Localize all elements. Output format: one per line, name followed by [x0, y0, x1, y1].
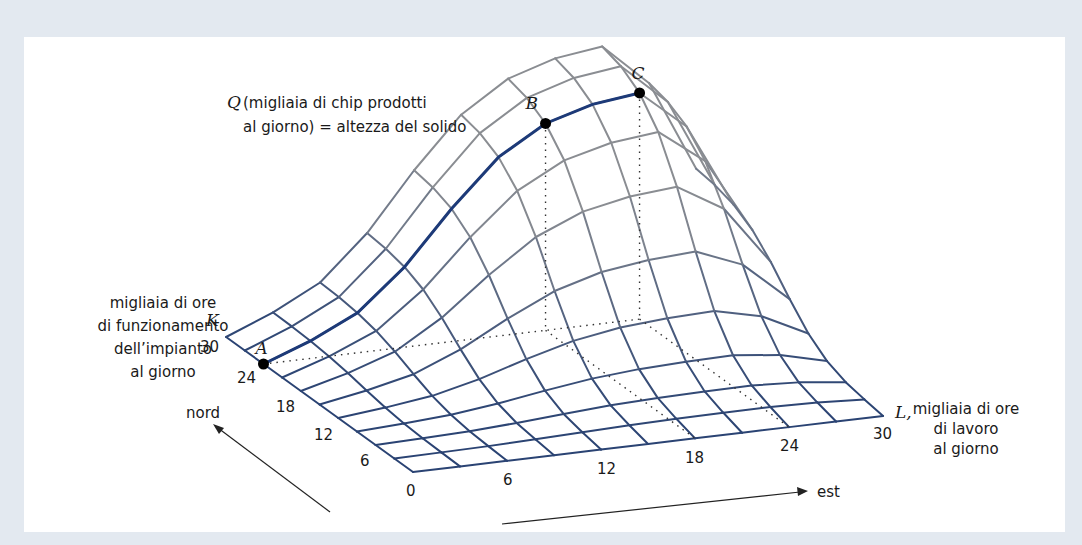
- mesh-line-const-l: [724, 209, 743, 265]
- mesh-line-const-l: [649, 260, 668, 318]
- mesh-line-const-k: [282, 356, 329, 377]
- q-label-line2: al giorno) = altezza del solido: [243, 118, 466, 136]
- mesh-line-const-k: [423, 431, 470, 438]
- mesh-line-const-k: [517, 414, 564, 423]
- mesh-line-const-l: [864, 399, 883, 416]
- east-label: est: [817, 483, 840, 501]
- mesh-line-const-l: [676, 419, 695, 439]
- l-label-line1: migliaia di ore: [913, 400, 1020, 418]
- mesh-line-const-l: [479, 379, 498, 403]
- mesh-line-const-k: [441, 446, 488, 452]
- mesh-line-const-l: [846, 382, 865, 399]
- k-axis-symbol: K: [205, 310, 220, 330]
- mesh-line-const-k: [545, 379, 592, 391]
- point-b-label: B: [525, 93, 539, 113]
- mesh-line-const-l: [573, 341, 592, 379]
- mesh-line-const-k: [573, 328, 620, 341]
- mesh-line-const-k: [770, 403, 817, 407]
- mesh-line-const-l: [574, 78, 593, 104]
- mesh-line-const-k: [385, 396, 432, 408]
- mesh-line-const-l: [667, 318, 686, 361]
- mesh-line-const-k: [395, 318, 442, 352]
- mesh-line-const-k: [423, 237, 470, 289]
- mesh-line-const-k: [301, 373, 348, 391]
- mesh-line-const-l: [367, 391, 386, 408]
- mesh-line-const-l: [808, 334, 827, 362]
- mesh-line-const-k: [413, 466, 460, 472]
- mesh-line-const-k: [555, 46, 602, 58]
- mesh-line-const-k: [292, 297, 339, 326]
- mesh-line-const-k: [648, 438, 695, 444]
- mesh-line-const-k: [245, 326, 292, 350]
- mesh-line-const-k: [536, 212, 583, 237]
- mesh-line-const-k: [752, 382, 799, 385]
- mesh-line-const-k: [394, 452, 441, 458]
- mesh-line-const-l: [827, 361, 846, 382]
- mesh-line-const-l: [686, 362, 705, 392]
- mesh-line-const-k: [414, 349, 461, 374]
- mesh-line-const-l: [489, 275, 508, 319]
- mesh-line-const-k: [489, 237, 536, 275]
- mesh-line-const-l: [752, 385, 771, 407]
- mesh-line-const-l: [770, 407, 789, 427]
- mesh-line-const-l: [498, 404, 517, 423]
- l-tick-18: 18: [685, 449, 704, 467]
- mesh-line-const-l: [470, 237, 489, 275]
- mesh-line-const-l: [414, 374, 433, 396]
- k-label-line4: al giorno: [130, 363, 196, 381]
- mesh-line-const-l: [771, 262, 790, 299]
- mesh-line-const-l: [752, 230, 771, 262]
- mesh-line-const-l: [611, 405, 630, 425]
- mesh-line-const-k: [488, 439, 535, 446]
- mesh-line-const-k: [404, 415, 451, 424]
- mesh-line-const-l: [441, 452, 460, 466]
- mesh-line-const-k: [442, 275, 489, 318]
- mesh-line-const-l: [423, 290, 442, 318]
- mesh-line-const-l: [602, 272, 621, 328]
- mesh-line-const-k: [836, 416, 883, 422]
- mesh-line-const-l: [301, 391, 320, 405]
- mesh-line-const-k: [376, 290, 423, 331]
- mesh-line-const-l: [226, 337, 245, 351]
- mesh-line-const-k: [742, 427, 789, 433]
- mesh-line-const-l: [620, 328, 639, 370]
- mesh-line-const-l: [629, 425, 648, 444]
- mesh-line-const-l: [526, 359, 545, 391]
- mesh-line-const-l: [583, 212, 602, 272]
- mesh-line-const-l: [405, 267, 424, 290]
- point-a-label: A: [253, 338, 267, 358]
- mesh-line-const-k: [526, 341, 573, 359]
- projection-dotted-lines: [263, 93, 789, 438]
- mesh-line-const-l: [499, 157, 518, 191]
- mesh-line-const-k: [611, 132, 658, 143]
- mesh-line-const-k: [611, 398, 658, 405]
- mesh-line-const-l: [508, 319, 527, 359]
- l-axis-symbol: L,: [894, 402, 912, 422]
- mesh-line-const-k: [629, 419, 676, 425]
- mesh-line-const-k: [555, 272, 602, 291]
- mesh-line-const-l: [677, 187, 696, 252]
- point-b-marker: [540, 118, 551, 129]
- k-tick-30: 30: [200, 338, 219, 356]
- mesh-line-const-l: [320, 405, 339, 419]
- mesh-line-const-k: [367, 170, 414, 233]
- mesh-line-const-k: [554, 450, 601, 456]
- production-function-3d-surface: ABC Q (migliaia di chip prodotti al gior…: [0, 0, 1082, 545]
- mesh-line-const-l: [546, 123, 565, 160]
- mesh-line-const-k: [508, 291, 555, 319]
- mesh-line-const-k: [451, 404, 498, 415]
- l-tick-24: 24: [780, 437, 799, 455]
- point-c-marker: [634, 87, 645, 98]
- mesh-line-const-k: [658, 391, 705, 397]
- mesh-line-const-l: [611, 143, 630, 197]
- mesh-line-const-l: [386, 249, 405, 267]
- mesh-line-const-l: [592, 379, 611, 406]
- mesh-line-const-l: [395, 352, 414, 375]
- mesh-line-const-l: [348, 373, 367, 390]
- mesh-line-const-l: [282, 378, 301, 392]
- mesh-line-const-k: [667, 311, 714, 318]
- mesh-line-const-l: [705, 391, 724, 412]
- mesh-line-const-l: [451, 415, 470, 431]
- mesh-line-const-k: [461, 79, 508, 115]
- q-symbol: Q: [227, 92, 241, 112]
